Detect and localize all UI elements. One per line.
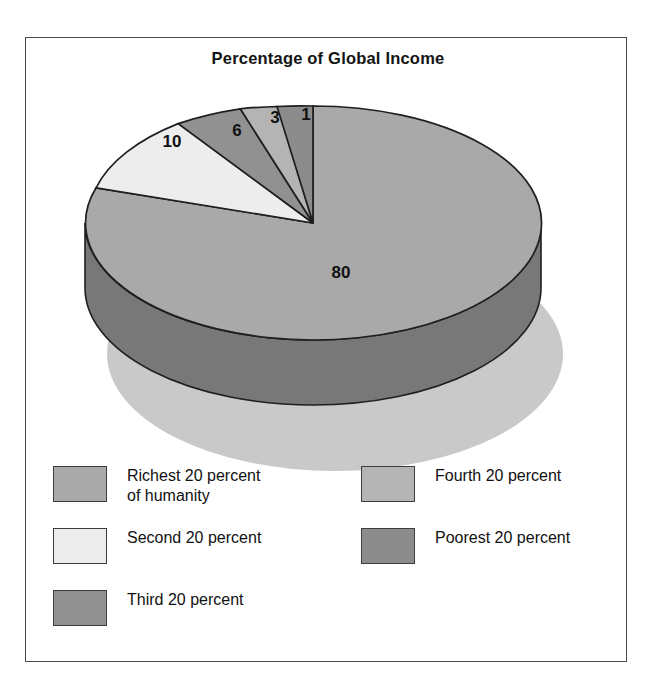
legend-label-poorest: Poorest 20 percent bbox=[435, 528, 570, 548]
legend-label-third: Third 20 percent bbox=[127, 590, 244, 610]
legend-item-fourth-20-percent[interactable]: Fourth 20 percent bbox=[361, 466, 561, 502]
legend-item-third-20-percent[interactable]: Third 20 percent bbox=[53, 590, 244, 626]
chart-legend: Richest 20 percentof humanity Second 20 … bbox=[53, 466, 613, 631]
legend-swatch-second bbox=[53, 528, 107, 564]
slice-value-label-fourth: 3 bbox=[270, 108, 279, 127]
legend-label-richest: Richest 20 percentof humanity bbox=[127, 466, 260, 506]
slice-value-label-third: 6 bbox=[232, 121, 241, 140]
legend-item-richest-20-percent[interactable]: Richest 20 percentof humanity bbox=[53, 466, 260, 506]
legend-swatch-third bbox=[53, 590, 107, 626]
legend-item-second-20-percent[interactable]: Second 20 percent bbox=[53, 528, 261, 564]
legend-label-fourth: Fourth 20 percent bbox=[435, 466, 561, 486]
figure-panel: Percentage of Global Income 80 10 6 3 bbox=[0, 0, 656, 690]
legend-swatch-poorest bbox=[361, 528, 415, 564]
legend-swatch-richest bbox=[53, 466, 107, 502]
slice-value-label-second: 10 bbox=[163, 132, 182, 151]
slice-value-label-richest: 80 bbox=[332, 263, 351, 282]
legend-label-second: Second 20 percent bbox=[127, 528, 261, 548]
slice-value-label-poorest: 1 bbox=[301, 105, 310, 124]
legend-item-poorest-20-percent[interactable]: Poorest 20 percent bbox=[361, 528, 570, 564]
legend-swatch-fourth bbox=[361, 466, 415, 502]
